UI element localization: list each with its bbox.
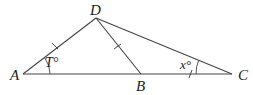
point-label-b: B bbox=[136, 78, 145, 94]
point-label-c: C bbox=[238, 67, 249, 83]
segment-dc bbox=[96, 18, 232, 74]
tick-mark-ad bbox=[52, 43, 58, 49]
point-label-a: A bbox=[9, 67, 20, 83]
angle-arc-c bbox=[196, 60, 199, 74]
point-label-d: D bbox=[89, 2, 101, 18]
segment-ad bbox=[23, 18, 96, 74]
angle-label-t: T° bbox=[45, 55, 59, 70]
angle-label-x: x° bbox=[179, 57, 191, 72]
triangle-diagram: D A B C T° x° bbox=[0, 0, 253, 95]
